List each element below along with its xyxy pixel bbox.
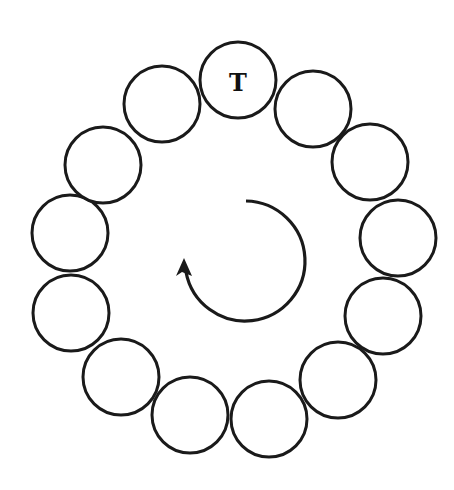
circle-3 [332, 124, 408, 200]
circle-12 [65, 127, 141, 203]
clockwise-rotation-arrow-icon [176, 201, 305, 321]
circle-8 [152, 377, 228, 453]
circle-5 [345, 278, 421, 354]
circle-10 [33, 275, 109, 351]
circle-13 [124, 66, 200, 142]
circle-7 [231, 381, 307, 457]
circle-ring: T [32, 42, 436, 457]
circle-4 [360, 200, 436, 276]
circle-9 [83, 339, 159, 415]
circle-2 [275, 71, 351, 147]
rotation-arc [186, 201, 305, 321]
circle-6 [300, 342, 376, 418]
circle-label-t: T [229, 68, 247, 97]
circle-1: T [200, 42, 276, 118]
seating-circle-diagram: T [0, 0, 454, 490]
circle-11 [32, 195, 108, 271]
arrowhead-icon [176, 258, 192, 276]
